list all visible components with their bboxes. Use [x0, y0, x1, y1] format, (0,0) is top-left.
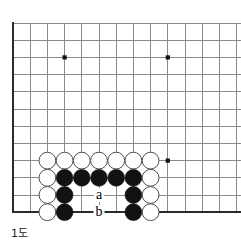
white-stone[interactable] [142, 204, 159, 221]
white-stone[interactable] [56, 152, 73, 169]
go-board[interactable] [0, 0, 241, 246]
white-stone[interactable] [39, 204, 56, 221]
black-stone[interactable] [108, 169, 125, 186]
go-diagram-figure: ab 1도 [0, 0, 241, 246]
white-stone[interactable] [39, 169, 56, 186]
white-stone[interactable] [142, 187, 159, 204]
white-stone[interactable] [125, 152, 142, 169]
black-stone[interactable] [91, 169, 108, 186]
black-stone[interactable] [56, 204, 73, 221]
star-point [166, 55, 170, 59]
star-point [166, 159, 170, 163]
black-stone[interactable] [73, 169, 90, 186]
white-stone[interactable] [142, 169, 159, 186]
black-stone[interactable] [125, 204, 142, 221]
black-stone[interactable] [56, 169, 73, 186]
black-stone[interactable] [125, 187, 142, 204]
white-stone[interactable] [39, 187, 56, 204]
black-stone[interactable] [125, 169, 142, 186]
point-label-a[interactable]: a [94, 188, 104, 202]
white-stone[interactable] [91, 152, 108, 169]
white-stone[interactable] [108, 152, 125, 169]
white-stone[interactable] [73, 152, 90, 169]
black-stone[interactable] [56, 187, 73, 204]
star-point [63, 55, 67, 59]
white-stone[interactable] [142, 152, 159, 169]
point-label-b[interactable]: b [94, 205, 105, 219]
white-stone[interactable] [39, 152, 56, 169]
figure-caption: 1도 [11, 228, 28, 240]
